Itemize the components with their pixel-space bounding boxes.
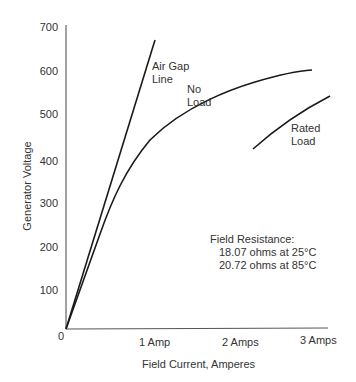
air-gap-label-line2: Line — [152, 73, 173, 86]
y-tick-100: 100 — [28, 284, 58, 296]
x-tick-2: 2 Amps — [222, 336, 259, 348]
y-tick-0: 0 — [34, 330, 64, 342]
y-axis-label: Generator Voltage — [21, 131, 33, 241]
air-gap-line — [66, 40, 155, 329]
rated-load-label-line2: Load — [291, 135, 315, 148]
no-load-label-line2: Load — [187, 96, 211, 109]
x-tick-3: 3 Amps — [300, 334, 337, 346]
y-tick-700: 700 — [28, 21, 58, 33]
y-tick-500: 500 — [28, 108, 58, 120]
x-axis-label: Field Current, Amperes — [142, 358, 255, 371]
y-tick-200: 200 — [28, 241, 58, 253]
field-resistance-title: Field Resistance: — [210, 233, 294, 246]
x-tick-1: 1 Amp — [139, 336, 170, 348]
y-tick-600: 600 — [28, 65, 58, 77]
chart-canvas — [0, 0, 356, 382]
field-resistance-25c: 18.07 ohms at 25°C — [219, 246, 316, 259]
rated-load-label-line1: Rated — [291, 122, 320, 135]
no-load-label-line1: No — [187, 83, 201, 96]
air-gap-label-line1: Air Gap — [152, 60, 189, 73]
field-resistance-85c: 20.72 ohms at 85°C — [219, 259, 316, 272]
x-axis — [66, 328, 328, 329]
